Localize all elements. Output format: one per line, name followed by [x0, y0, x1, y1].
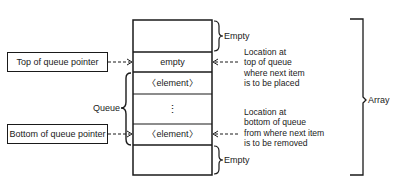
array-bracket [350, 19, 366, 175]
array-outline [133, 20, 212, 175]
bottom-of-queue-pointer-box: Bottom of queue pointer [7, 124, 108, 144]
bottom-pointer-label: Bottom of queue pointer [9, 129, 105, 139]
top-empty-label: Empty [224, 31, 250, 42]
top-note-line: Location at [244, 47, 305, 57]
top-of-queue-pointer-box: Top of queue pointer [7, 52, 108, 72]
bottom-note-line: is to be removed [244, 138, 324, 148]
bottom-empty-label: Empty [224, 155, 250, 166]
cell-ellipsis: ⋮ [133, 99, 212, 119]
top-note-line: where next item [244, 68, 305, 78]
top-note-line: top of queue [244, 57, 305, 67]
array-label: Array [368, 95, 390, 106]
cell-top-element: 〈element〉 [133, 78, 212, 89]
cell-bottom-element: 〈element〉 [133, 129, 212, 140]
queue-label: Queue [93, 103, 120, 114]
bottom-note-line: bottom of queue [244, 117, 324, 127]
diagram-lines [0, 0, 398, 182]
queue-array-diagram: empty 〈element〉 ⋮ 〈element〉 Empty Empty … [0, 0, 398, 182]
bottom-empty-brace [214, 146, 223, 174]
cell-next-insert-slot: empty [133, 57, 212, 68]
top-empty-brace [214, 21, 223, 51]
bottom-note-line: Location at [244, 107, 324, 117]
top-note: Location at top of queue where next item… [244, 47, 305, 89]
top-note-line: is to be placed [244, 78, 305, 88]
bottom-note: Location at bottom of queue from where n… [244, 107, 324, 149]
top-pointer-label: Top of queue pointer [16, 57, 98, 67]
bottom-note-line: from where next item [244, 128, 324, 138]
